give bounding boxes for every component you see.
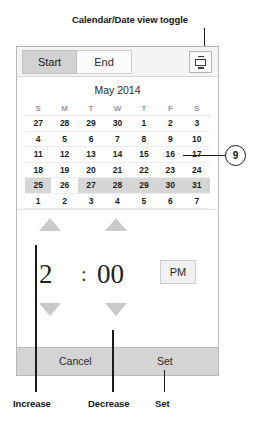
calendar-day-24[interactable]: 24: [184, 162, 210, 178]
calendar-day-27[interactable]: 27: [78, 178, 104, 194]
hour-decrease-arrow[interactable]: [39, 303, 61, 316]
calendar-day-4[interactable]: 4: [25, 131, 51, 147]
tab-start-label: Start: [38, 56, 61, 68]
callout-number: 9: [233, 151, 239, 161]
leader-line-set: [164, 370, 166, 392]
calendar-day-13[interactable]: 13: [78, 147, 104, 163]
calendar-day-28[interactable]: 28: [51, 116, 77, 132]
calendar-day-15[interactable]: 15: [131, 147, 157, 163]
weekday-header-2: T: [78, 102, 104, 116]
calendar-week-row: 27282930123: [25, 116, 210, 132]
annotation-top-label: Calendar/Date view toggle: [0, 14, 260, 25]
cancel-button[interactable]: Cancel: [59, 355, 92, 367]
calendar-day-9[interactable]: 9: [157, 131, 183, 147]
calendar-day-27[interactable]: 27: [25, 116, 51, 132]
calendar-day-4[interactable]: 4: [104, 193, 130, 209]
weekday-header-6: S: [184, 102, 210, 116]
calendar-day-12[interactable]: 12: [51, 147, 77, 163]
calendar-day-25[interactable]: 25: [25, 178, 51, 194]
calendar-day-1[interactable]: 1: [25, 193, 51, 209]
calendar-day-31[interactable]: 31: [184, 178, 210, 194]
hour-value[interactable]: 2: [39, 261, 53, 288]
calendar-day-6[interactable]: 6: [157, 193, 183, 209]
weekday-header-1: M: [51, 102, 77, 116]
leader-line-increase: [35, 245, 37, 392]
calendar-day-18[interactable]: 18: [25, 162, 51, 178]
callout-leader-line: [183, 155, 226, 157]
calendar-month-title: May 2014: [25, 77, 210, 102]
calendar-day-30[interactable]: 30: [157, 178, 183, 194]
tab-end-label: End: [94, 56, 114, 68]
callout-badge-9: 9: [225, 145, 246, 166]
calendar-day-6[interactable]: 6: [78, 131, 104, 147]
calendar-day-30[interactable]: 30: [104, 116, 130, 132]
calendar-weekday-header: SMTWTFS: [25, 102, 210, 116]
calendar-day-23[interactable]: 23: [157, 162, 183, 178]
set-button[interactable]: Set: [157, 355, 173, 367]
calendar-day-22[interactable]: 22: [131, 162, 157, 178]
calendar-day-16[interactable]: 16: [157, 147, 183, 163]
calendar-day-1[interactable]: 1: [131, 116, 157, 132]
calendar-day-21[interactable]: 21: [104, 162, 130, 178]
calendar-day-29[interactable]: 29: [131, 178, 157, 194]
calendar-day-14[interactable]: 14: [104, 147, 130, 163]
calendar-day-3[interactable]: 3: [78, 193, 104, 209]
calendar-day-7[interactable]: 7: [184, 193, 210, 209]
calendar-day-3[interactable]: 3: [184, 116, 210, 132]
hour-increase-arrow[interactable]: [39, 218, 61, 231]
weekday-header-0: S: [25, 102, 51, 116]
weekday-header-5: F: [157, 102, 183, 116]
calendar-day-5[interactable]: 5: [131, 193, 157, 209]
calendar-day-19[interactable]: 19: [51, 162, 77, 178]
leader-line-decrease: [112, 330, 114, 392]
annotation-label-set: Set: [155, 398, 169, 409]
calendar-day-29[interactable]: 29: [78, 116, 104, 132]
calendar-day-28[interactable]: 28: [104, 178, 130, 194]
calendar-day-11[interactable]: 11: [25, 147, 51, 163]
calendar-day-26-selected[interactable]: 26: [51, 178, 77, 194]
button-bar: Cancel Set: [17, 347, 218, 375]
time-separator: :: [81, 263, 87, 286]
calendar-week-row: 25262728293031: [25, 178, 210, 194]
minute-decrease-arrow[interactable]: [105, 303, 127, 316]
calendar-day-2[interactable]: 2: [51, 193, 77, 209]
annotation-label-increase: Increase: [13, 398, 51, 409]
calendar-day-10[interactable]: 10: [184, 131, 210, 147]
calendar-day-7[interactable]: 7: [104, 131, 130, 147]
time-picker: 2 : 00 PM: [17, 209, 218, 347]
calendar-week-row: 1234567: [25, 193, 210, 209]
time-value-row: 2 : 00 PM: [17, 254, 218, 294]
calendar: May 2014 SMTWTFS 27282930123456789101112…: [17, 77, 218, 209]
calendar-week-row: 18192021222324: [25, 162, 210, 178]
date-time-picker-panel: Start End May 2014 SMTWTFS 2728293012345…: [16, 46, 219, 376]
minute-increase-arrow[interactable]: [105, 218, 127, 231]
tab-bar: Start End: [17, 47, 218, 77]
calendar-week-row: 45678910: [25, 131, 210, 147]
calendar-date-view-toggle-icon: [194, 55, 207, 69]
minute-value[interactable]: 00: [97, 261, 124, 288]
tab-start[interactable]: Start: [22, 50, 77, 74]
weekday-header-4: T: [131, 102, 157, 116]
meridiem-button[interactable]: PM: [160, 260, 196, 284]
calendar-date-view-toggle-button[interactable]: [189, 51, 212, 73]
tab-end[interactable]: End: [77, 50, 132, 74]
weekday-header-3: W: [104, 102, 130, 116]
annotation-label-decrease: Decrease: [88, 398, 129, 409]
calendar-day-8[interactable]: 8: [131, 131, 157, 147]
calendar-day-2[interactable]: 2: [157, 116, 183, 132]
calendar-day-5[interactable]: 5: [51, 131, 77, 147]
calendar-day-20[interactable]: 20: [78, 162, 104, 178]
